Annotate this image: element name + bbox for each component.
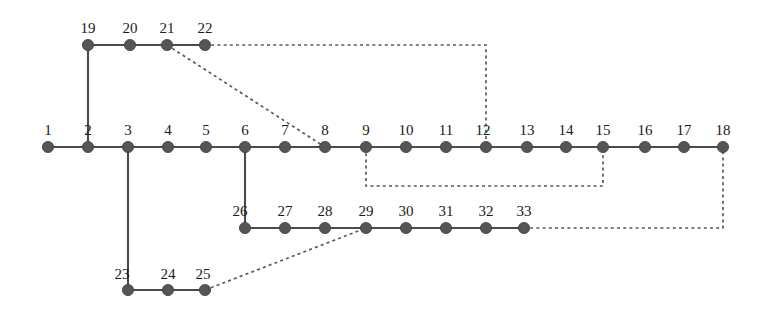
graph-node-20[interactable] — [124, 39, 135, 50]
graph-node-24[interactable] — [162, 284, 173, 295]
node-label-21: 21 — [160, 20, 175, 36]
graph-node-7[interactable] — [279, 141, 290, 152]
node-label-9: 9 — [362, 122, 370, 138]
graph-node-14[interactable] — [560, 141, 571, 152]
node-label-8: 8 — [321, 122, 329, 138]
solid-edges-group — [48, 45, 723, 290]
edge-dashed-33-18 — [524, 147, 723, 228]
node-label-20: 20 — [123, 20, 138, 36]
graph-node-32[interactable] — [480, 222, 491, 233]
nodes-group — [42, 39, 728, 295]
node-label-32: 32 — [479, 203, 494, 219]
node-label-22: 22 — [198, 20, 213, 36]
graph-node-28[interactable] — [319, 222, 330, 233]
node-label-18: 18 — [716, 122, 731, 138]
graph-node-16[interactable] — [639, 141, 650, 152]
graph-node-1[interactable] — [42, 141, 53, 152]
dashed-edges-group — [167, 45, 723, 290]
graph-node-8[interactable] — [319, 141, 330, 152]
graph-node-5[interactable] — [200, 141, 211, 152]
graph-node-3[interactable] — [122, 141, 133, 152]
node-label-6: 6 — [241, 122, 249, 138]
graph-node-15[interactable] — [597, 141, 608, 152]
node-label-4: 4 — [164, 122, 172, 138]
node-label-2: 2 — [84, 122, 92, 138]
edge-dashed-9-15 — [366, 147, 603, 186]
graph-node-9[interactable] — [360, 141, 371, 152]
node-label-14: 14 — [559, 122, 575, 138]
graph-node-21[interactable] — [161, 39, 172, 50]
node-label-11: 11 — [439, 122, 453, 138]
node-label-10: 10 — [399, 122, 414, 138]
graph-node-10[interactable] — [400, 141, 411, 152]
graph-node-25[interactable] — [199, 284, 210, 295]
graph-node-18[interactable] — [717, 141, 728, 152]
node-label-15: 15 — [596, 122, 611, 138]
node-label-33: 33 — [517, 203, 532, 219]
graph-node-30[interactable] — [400, 222, 411, 233]
node-label-27: 27 — [278, 203, 294, 219]
node-label-23: 23 — [115, 266, 130, 282]
node-label-29: 29 — [359, 203, 374, 219]
graph-node-4[interactable] — [162, 141, 173, 152]
network-diagram: 1234567891011121314151617181920212223242… — [0, 0, 767, 310]
graph-node-12[interactable] — [480, 141, 491, 152]
node-label-16: 16 — [638, 122, 654, 138]
node-label-31: 31 — [439, 203, 454, 219]
node-label-26: 26 — [233, 203, 249, 219]
graph-node-23[interactable] — [122, 284, 133, 295]
graph-node-19[interactable] — [82, 39, 93, 50]
graph-node-27[interactable] — [279, 222, 290, 233]
node-label-5: 5 — [202, 122, 210, 138]
node-labels-group: 1234567891011121314151617181920212223242… — [44, 20, 730, 282]
node-label-13: 13 — [520, 122, 535, 138]
node-label-28: 28 — [318, 203, 333, 219]
node-label-25: 25 — [196, 266, 211, 282]
graph-node-22[interactable] — [199, 39, 210, 50]
node-label-24: 24 — [161, 266, 177, 282]
graph-node-31[interactable] — [440, 222, 451, 233]
graph-node-11[interactable] — [440, 141, 451, 152]
node-label-1: 1 — [44, 122, 52, 138]
node-label-7: 7 — [281, 122, 289, 138]
node-label-12: 12 — [476, 122, 491, 138]
node-label-3: 3 — [124, 122, 132, 138]
node-label-19: 19 — [81, 20, 96, 36]
graph-canvas: 1234567891011121314151617181920212223242… — [0, 0, 767, 310]
node-label-17: 17 — [677, 122, 693, 138]
graph-node-26[interactable] — [239, 222, 250, 233]
graph-node-2[interactable] — [82, 141, 93, 152]
graph-node-13[interactable] — [521, 141, 532, 152]
graph-node-29[interactable] — [360, 222, 371, 233]
graph-node-33[interactable] — [518, 222, 529, 233]
node-label-30: 30 — [399, 203, 414, 219]
graph-node-17[interactable] — [678, 141, 689, 152]
edge-dashed-25-29 — [205, 228, 366, 290]
graph-node-6[interactable] — [239, 141, 250, 152]
